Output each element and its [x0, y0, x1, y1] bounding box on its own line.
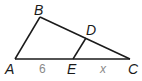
- label-c: C: [128, 61, 139, 77]
- label-b: B: [34, 2, 43, 18]
- length-ec: x: [99, 62, 107, 76]
- label-d: D: [86, 22, 96, 38]
- segment-bc: [40, 17, 130, 59]
- length-ae: 6: [39, 62, 46, 76]
- segment-de: [73, 38, 86, 59]
- label-a: A: [4, 61, 14, 77]
- segment-ab: [15, 17, 40, 59]
- triangle-diagram: A B C D E 6 x: [0, 0, 142, 81]
- label-e: E: [67, 61, 77, 77]
